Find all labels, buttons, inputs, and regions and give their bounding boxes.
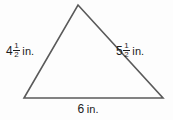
left-side-unit: in.	[22, 46, 34, 57]
right-side-whole-number: 5	[116, 45, 123, 57]
left-side-numerator: 1	[13, 42, 20, 50]
right-side-fraction: 1 2	[123, 42, 130, 60]
right-side-denominator: 2	[123, 51, 130, 59]
base-length-label: 6 in.	[58, 101, 118, 117]
right-side-length-label: 5 1 2 in.	[116, 40, 172, 62]
left-side-denominator: 2	[13, 51, 20, 59]
left-side-length-label: 4 1 2 in.	[6, 40, 60, 62]
right-side-mixed-number: 5 1 2	[116, 42, 130, 60]
left-side-fraction: 1 2	[13, 42, 20, 60]
triangle-figure: 4 1 2 in. 5 1 2 in. 6 in.	[0, 0, 173, 120]
left-side-mixed-number: 4 1 2	[6, 42, 20, 60]
right-side-unit: in.	[132, 46, 144, 57]
base-whole-number: 6	[77, 103, 84, 115]
right-side-numerator: 1	[123, 42, 130, 50]
base-unit: in.	[87, 104, 99, 115]
left-side-whole-number: 4	[6, 45, 13, 57]
